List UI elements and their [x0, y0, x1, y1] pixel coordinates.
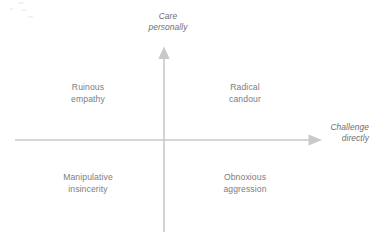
care-personally-axis-label: Care personally [148, 11, 187, 33]
challenge-directly-axis-label-line2: directly [265, 133, 369, 144]
care-personally-axis-label-line2: personally [148, 22, 187, 33]
quadrant-label-radical-candour-line2: candour [229, 94, 261, 106]
quadrant-label-radical-candour: Radical candour [229, 82, 261, 105]
challenge-directly-axis-label: Challenge directly [265, 122, 369, 144]
challenge-directly-axis-label-line1: Challenge [265, 122, 369, 133]
quadrant-label-ruinous-empathy: Ruinous empathy [71, 82, 105, 105]
quadrant-label-manipulative-insincerity-line2: insincerity [63, 184, 113, 196]
quadrant-label-manipulative-insincerity-line1: Manipulative [63, 172, 113, 184]
quadrant-label-ruinous-empathy-line2: empathy [71, 94, 105, 106]
quadrant-label-radical-candour-line1: Radical [229, 82, 261, 94]
quadrant-label-obnoxious-aggression-line2: aggression [223, 184, 266, 196]
quadrant-label-obnoxious-aggression: Obnoxious aggression [223, 172, 266, 195]
care-personally-axis-label-line1: Care [148, 11, 187, 22]
quadrant-label-ruinous-empathy-line1: Ruinous [71, 82, 105, 94]
quadrant-diagram-canvas: Care personally Challenge directly Ruino… [0, 0, 373, 242]
axes-graphic [0, 0, 373, 242]
quadrant-label-obnoxious-aggression-line1: Obnoxious [223, 172, 266, 184]
vertical-axis-arrowhead [158, 47, 169, 60]
quadrant-label-manipulative-insincerity: Manipulative insincerity [63, 172, 113, 195]
